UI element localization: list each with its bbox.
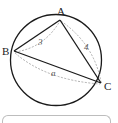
side-bc [14, 51, 101, 83]
side-label-ac: 4 [84, 42, 89, 52]
dimension-arc-bc [15, 53, 100, 84]
answer-box [2, 115, 111, 123]
vertex-label-a: A [57, 5, 65, 17]
side-ab [14, 20, 60, 51]
vertex-label-b: B [2, 45, 9, 57]
side-label-ab: 3 [37, 37, 43, 47]
side-label-bc: a [51, 68, 56, 78]
vertex-label-c: C [104, 80, 111, 92]
side-ac [60, 20, 101, 83]
inscribed-triangle-diagram: A B C 3 4 a [0, 0, 118, 123]
